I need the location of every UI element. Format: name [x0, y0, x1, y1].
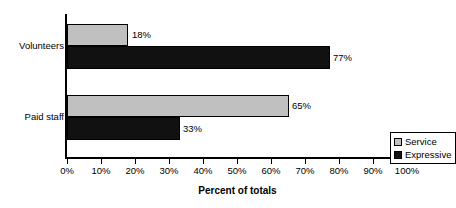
x-axis-tick-label: 60%: [261, 165, 280, 176]
legend-item-service: Service: [394, 135, 451, 148]
x-axis-tick: [271, 159, 272, 164]
x-axis-tick: [67, 159, 68, 164]
x-axis-tick: [339, 159, 340, 164]
bar-value-volunteers-expressive: 77%: [333, 52, 352, 63]
bar-value-paid-staff-expressive: 33%: [183, 123, 202, 134]
category-label-volunteers: Volunteers: [19, 40, 64, 51]
category-label-paid-staff: Paid staff: [25, 111, 64, 122]
x-axis-tick-label: 50%: [227, 165, 246, 176]
x-axis-tick: [237, 159, 238, 164]
x-axis-tick: [203, 159, 204, 164]
x-axis-tick: [373, 159, 374, 164]
bar-paid-staff-service: [67, 95, 289, 117]
bar-paid-staff-expressive: [67, 117, 180, 140]
x-axis-tick-label: 40%: [193, 165, 212, 176]
chart-legend: Service Expressive: [390, 132, 456, 164]
x-axis-tick-label: 80%: [329, 165, 348, 176]
legend-label-service: Service: [405, 136, 437, 147]
x-axis-tick: [169, 159, 170, 164]
x-axis-tick-label: 0%: [60, 165, 74, 176]
plot-area: 0% 10% 20% 30% 40% 50% 60% 70% 80% 90% 1…: [67, 14, 408, 157]
bar-volunteers-expressive: [67, 46, 330, 69]
x-axis-tick-label: 30%: [159, 165, 178, 176]
legend-label-expressive: Expressive: [405, 149, 451, 160]
x-axis-tick-label: 100%: [395, 165, 419, 176]
x-axis-tick: [101, 159, 102, 164]
bar-volunteers-service: [67, 24, 128, 46]
x-axis-tick: [135, 159, 136, 164]
x-axis-tick-label: 90%: [363, 165, 382, 176]
x-axis-title: Percent of totals: [67, 185, 408, 197]
x-axis-tick-label: 20%: [125, 165, 144, 176]
legend-swatch-expressive-icon: [394, 151, 402, 159]
x-axis-tick-label: 70%: [295, 165, 314, 176]
bar-value-paid-staff-service: 65%: [292, 100, 311, 111]
legend-item-expressive: Expressive: [394, 148, 451, 161]
legend-swatch-service-icon: [394, 138, 402, 146]
x-axis-tick-label: 10%: [91, 165, 110, 176]
x-axis-tick: [305, 159, 306, 164]
bar-value-volunteers-service: 18%: [132, 29, 151, 40]
